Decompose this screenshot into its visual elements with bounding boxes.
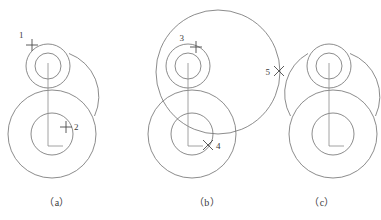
marker-3-label: 3 xyxy=(180,33,185,43)
panel-a-right-blend-arc xyxy=(69,54,99,117)
marker-1-label: 1 xyxy=(19,30,24,40)
engineering-drawing-canvas: 1 2 （a） xyxy=(0,0,381,220)
figure-board: 1 2 （a） xyxy=(0,0,381,220)
panel-b: 3 4 5 （b） xyxy=(148,10,284,208)
marker-2-label: 2 xyxy=(74,122,79,132)
panel-b-marker-4: 4 xyxy=(203,140,221,151)
panel-a-large-boss-outer-circle xyxy=(8,90,96,178)
panel-a-marker-2: 2 xyxy=(60,121,79,133)
caption-c: （c） xyxy=(309,197,334,208)
marker-4-label: 4 xyxy=(216,141,221,151)
panel-b-construction-circle xyxy=(156,10,280,134)
panel-a-large-boss-inner-circle xyxy=(31,113,73,155)
panel-b-marker-5: 5 xyxy=(266,66,285,77)
marker-5-label: 5 xyxy=(266,67,271,77)
panel-c: （c） xyxy=(285,44,380,208)
panel-c-right-blend-arc xyxy=(350,54,380,117)
panel-c-large-boss-outer-circle xyxy=(289,90,377,178)
panel-c-large-boss-inner-circle xyxy=(312,113,354,155)
panel-b-large-boss-inner-circle xyxy=(171,113,213,155)
caption-a: （a） xyxy=(44,197,69,208)
caption-b: （b） xyxy=(194,197,220,208)
panel-a: 1 2 （a） xyxy=(8,30,99,208)
panel-c-left-blend-arc xyxy=(285,54,308,117)
panel-b-marker-3: 3 xyxy=(180,33,203,53)
